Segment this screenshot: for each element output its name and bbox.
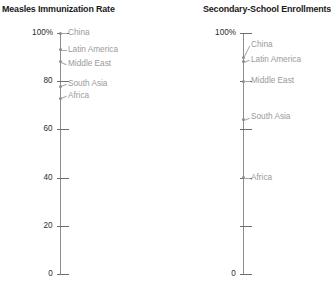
data-point-label: Latin America: [68, 44, 118, 54]
chart-secondary-school-enrollments: Secondary-School Enrollments 100%0ChinaL…: [163, 0, 327, 300]
data-point-label: Middle East: [68, 58, 111, 68]
label-leader-line: [61, 84, 67, 87]
y-axis-tick-label: 60: [44, 123, 53, 133]
label-leader-line: [244, 81, 250, 82]
y-axis-tick: [57, 274, 69, 275]
label-leader-line: [61, 33, 67, 34]
y-axis-tick: [240, 274, 252, 275]
data-point-label: China: [251, 39, 273, 49]
y-axis-tick-label: 20: [44, 220, 53, 230]
y-axis-tick: [57, 178, 69, 179]
data-point-label: Africa: [68, 90, 89, 100]
y-axis-tick-label: 0: [48, 268, 53, 278]
data-point-label: Latin America: [251, 54, 301, 64]
y-axis-line: [243, 33, 244, 274]
data-point-label: Middle East: [251, 75, 294, 85]
y-axis-tick: [57, 226, 69, 227]
y-axis-tick-label: 80: [44, 75, 53, 85]
plot-area-left: 100%806040200ChinaLatin AmericaMiddle Ea…: [0, 0, 164, 300]
y-axis-tick: [57, 129, 69, 130]
label-leader-line: [61, 50, 67, 51]
chart-measles-immunization-rate: Measles Immunization Rate 100%806040200C…: [0, 0, 164, 300]
y-axis-tick-label: 100%: [32, 27, 53, 37]
y-axis-tick-label: 100%: [215, 27, 236, 37]
y-axis-tick-label: 40: [44, 172, 53, 182]
label-leader-line: [61, 62, 67, 65]
label-leader-line: [244, 45, 251, 57]
y-axis-line: [60, 33, 61, 274]
label-leader-line: [244, 178, 250, 179]
data-point-label: South Asia: [251, 111, 290, 121]
plot-area-right: 100%0ChinaLatin AmericaMiddle EastSouth …: [163, 0, 327, 300]
y-axis-tick: [240, 129, 252, 130]
data-point-label: South Asia: [68, 78, 107, 88]
label-leader-line: [61, 96, 67, 99]
data-point-label: China: [68, 27, 90, 37]
y-axis-tick-label: 0: [231, 268, 236, 278]
y-axis-tick: [240, 226, 252, 227]
data-point-label: Africa: [251, 172, 272, 182]
y-axis-tick: [240, 33, 252, 34]
